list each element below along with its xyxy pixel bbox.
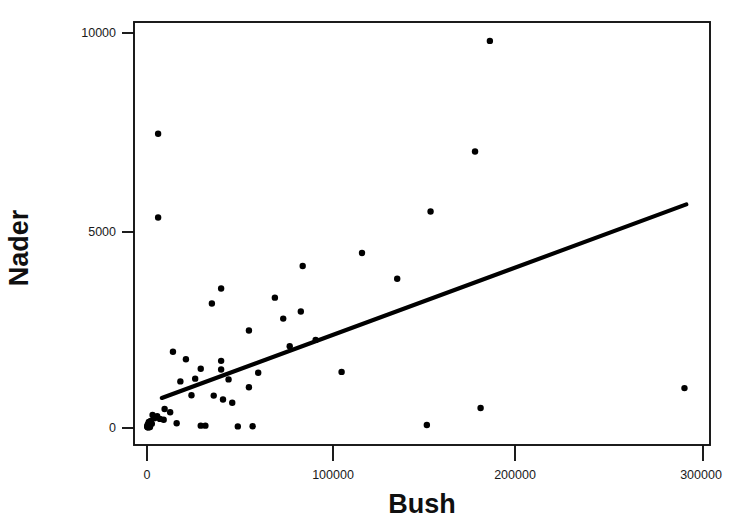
data-point	[472, 148, 478, 154]
data-point	[299, 263, 305, 269]
data-point	[427, 208, 433, 214]
data-point	[359, 250, 365, 256]
data-point	[177, 378, 183, 384]
x-tick-label-300000: 300000	[680, 468, 722, 482]
data-point	[167, 409, 173, 415]
data-point	[272, 294, 278, 300]
data-point	[477, 405, 483, 411]
data-point	[280, 315, 286, 321]
scatter-plot: 10000 5000 0 0 100000 200000 300000 Nade…	[0, 0, 729, 520]
data-point	[225, 376, 231, 382]
data-point	[155, 131, 161, 137]
data-point	[192, 375, 198, 381]
data-point	[338, 369, 344, 375]
data-point	[246, 384, 252, 390]
data-point	[173, 420, 179, 426]
regression-line	[162, 204, 686, 398]
y-tick-label-10000: 10000	[81, 26, 116, 40]
data-point	[229, 400, 235, 406]
data-point	[487, 38, 493, 44]
data-point	[202, 422, 208, 428]
data-point	[424, 422, 430, 428]
x-tick-label-200000: 200000	[494, 468, 536, 482]
data-point	[218, 366, 224, 372]
data-point	[681, 385, 687, 391]
data-point	[161, 406, 167, 412]
data-point	[394, 275, 400, 281]
y-tick-label-0: 0	[109, 421, 116, 435]
x-tick-label-100000: 100000	[312, 468, 354, 482]
data-point	[235, 423, 241, 429]
data-point	[218, 358, 224, 364]
data-point	[298, 308, 304, 314]
x-tick-label-0: 0	[144, 468, 151, 482]
y-axis-title: Nader	[4, 209, 34, 286]
data-point	[211, 392, 217, 398]
regression-line-layer	[162, 204, 686, 398]
data-point	[246, 327, 252, 333]
plot-frame	[134, 22, 710, 445]
data-point	[218, 285, 224, 291]
data-point	[198, 366, 204, 372]
data-point	[209, 300, 215, 306]
data-point	[188, 392, 194, 398]
data-point	[155, 214, 161, 220]
data-point	[255, 370, 261, 376]
x-axis-title: Bush	[388, 489, 456, 519]
data-point	[170, 349, 176, 355]
data-point	[147, 424, 153, 430]
y-tick-label-5000: 5000	[88, 225, 116, 239]
data-point	[160, 417, 166, 423]
data-point	[249, 423, 255, 429]
chart-page: 10000 5000 0 0 100000 200000 300000 Nade…	[0, 0, 729, 520]
y-axis-ticks	[122, 33, 134, 428]
data-point	[183, 356, 189, 362]
data-point	[220, 396, 226, 402]
x-axis-ticks	[147, 445, 703, 461]
